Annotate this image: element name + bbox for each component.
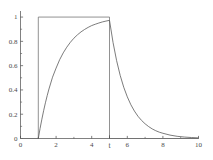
x-tick-label-6: 6 — [126, 141, 130, 149]
x-tick-label-2: 2 — [54, 141, 58, 149]
y-tick-label-1: 1 — [14, 13, 18, 21]
x-tick-label-8: 8 — [161, 141, 165, 149]
x-tick-label-4: 4 — [90, 141, 94, 149]
y-tick-label-0.4: 0.4 — [9, 86, 18, 94]
y-tick-label-0.8: 0.8 — [9, 38, 18, 46]
y-tick-label-0: 0 — [14, 135, 18, 143]
chart-figure: 0246810 00.20.40.60.81 t — [0, 0, 213, 160]
plot-canvas: 0246810 00.20.40.60.81 t — [0, 0, 213, 160]
y-tick-label-0.2: 0.2 — [9, 111, 18, 119]
x-tick-label-0: 0 — [19, 141, 23, 149]
chart-background — [0, 0, 213, 160]
x-tick-label-10: 10 — [195, 141, 203, 149]
y-tick-label-0.6: 0.6 — [9, 62, 18, 70]
